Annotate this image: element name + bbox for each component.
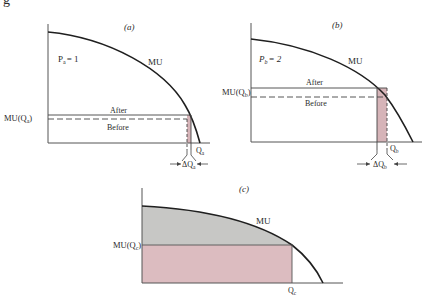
curve-label-c: MU xyxy=(256,216,271,226)
diagram-canvas: g (a) Pa= 1 MU After Before MU(Qa) Qa ΔQ… xyxy=(0,0,437,307)
y-value-label-b: MU(Qb) xyxy=(222,87,251,98)
arrowhead-icon xyxy=(366,162,370,166)
panel-label-a: (a) xyxy=(124,22,135,32)
y-value-label-c: MU(Qc) xyxy=(113,240,141,251)
curve-label-a: MU xyxy=(148,57,163,67)
arrowhead-icon xyxy=(394,162,398,166)
curve-label-b: MU xyxy=(348,56,363,66)
panel-label-b: (b) xyxy=(332,20,343,30)
figure-mark: g xyxy=(3,0,10,7)
panel-b: (b) Pb= 2 MU After Before MU(Qb) Qb ΔQb xyxy=(222,20,422,170)
arrowhead-icon xyxy=(177,162,181,166)
before-label-b: Before xyxy=(305,99,327,108)
after-label-a: After xyxy=(110,106,127,115)
q-label-c: Qc xyxy=(288,286,297,296)
before-label-a: Before xyxy=(107,123,129,132)
q-label-a: Qa xyxy=(196,146,205,156)
panel-a: (a) Pa= 1 MU After Before MU(Qa) Qa ΔQa xyxy=(4,22,210,170)
delta-label-b: ΔQb xyxy=(373,160,387,170)
y-value-label-a: MU(Qa) xyxy=(4,113,32,124)
panel-label-c: (c) xyxy=(239,184,249,194)
price-label-a: Pa= 1 xyxy=(58,54,79,65)
q-label-b: Qb xyxy=(390,144,399,154)
delta-label-a: ΔQa xyxy=(182,160,196,170)
after-label-b: After xyxy=(306,78,323,87)
delta-q-area-a xyxy=(187,115,191,143)
panel-c: (c) MU MU(Qc) Qc xyxy=(113,184,343,296)
arrowhead-icon xyxy=(197,162,201,166)
expenditure-area-c xyxy=(142,245,292,283)
price-label-b: Pb= 2 xyxy=(258,54,282,65)
